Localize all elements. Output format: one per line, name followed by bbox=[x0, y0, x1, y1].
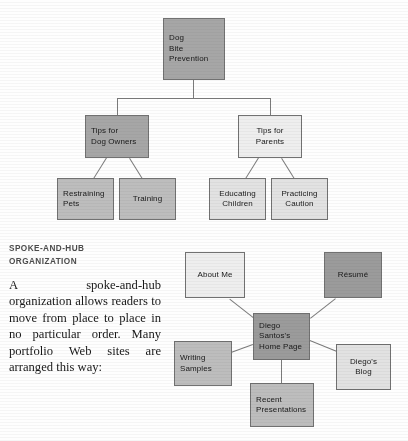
node-label-line2: Presentations bbox=[256, 405, 306, 416]
node-label-line2: Children bbox=[222, 199, 253, 210]
spoke-node-about-me: About Me bbox=[185, 252, 245, 298]
connector-hub-resume bbox=[310, 298, 336, 318]
connector-branch-left-drop bbox=[117, 98, 118, 115]
node-label-line1: Writing bbox=[180, 353, 205, 364]
node-label-line1: Diego bbox=[259, 321, 280, 332]
node-label-line2: Blog bbox=[355, 367, 371, 378]
body-paragraph: A spoke-and-hub organization allows read… bbox=[9, 277, 161, 375]
node-label-line1: Practicing bbox=[281, 189, 317, 200]
node-label-line2: Pets bbox=[63, 199, 79, 210]
connector-root-stem bbox=[193, 80, 194, 98]
section-heading-line2: ORGANIZATION bbox=[9, 256, 161, 269]
hierarchy-node-tips-parents: Tips for Parents bbox=[238, 115, 302, 158]
node-label-line1: About Me bbox=[197, 270, 232, 281]
hierarchy-node-root: Dog Bite Prevention bbox=[163, 18, 225, 80]
hierarchy-node-tips-dog-owners: Tips for Dog Owners bbox=[85, 115, 149, 158]
node-label-line1: Educating bbox=[219, 189, 255, 200]
node-label-line1: Résumé bbox=[338, 270, 368, 281]
hierarchy-leaf-restraining-pets: Restraining Pets bbox=[57, 178, 114, 220]
hierarchy-leaf-training: Training bbox=[119, 178, 176, 220]
connector-hub-about-me bbox=[229, 299, 253, 318]
connector-horizontal-bus bbox=[117, 98, 270, 99]
node-label-line3: Prevention bbox=[169, 54, 208, 65]
node-label-line1: Tips for bbox=[91, 126, 118, 137]
spoke-node-recent-presentations: Recent Presentations bbox=[250, 383, 314, 427]
spoke-node-diegos-blog: Diego's Blog bbox=[336, 344, 391, 390]
node-label-line2: Dog Owners bbox=[91, 137, 136, 148]
hierarchy-leaf-practicing-caution: Practicing Caution bbox=[271, 178, 328, 220]
node-label-line2: Bite bbox=[169, 44, 183, 55]
spoke-node-resume: Résumé bbox=[324, 252, 382, 298]
node-label-line3: Home Page bbox=[259, 342, 302, 353]
section-heading: SPOKE-AND-HUB ORGANIZATION bbox=[9, 243, 161, 268]
node-label-line1: Dog bbox=[169, 33, 184, 44]
connector-branch-right-drop bbox=[270, 98, 271, 115]
section-heading-line1: SPOKE-AND-HUB bbox=[9, 243, 161, 256]
node-label-line1: Restraining bbox=[63, 189, 105, 200]
node-label-line2: Caution bbox=[285, 199, 313, 210]
node-label-line1: Recent bbox=[256, 395, 282, 406]
connector-hub-recent-presentations bbox=[281, 360, 282, 383]
node-label-line1: Tips for bbox=[256, 126, 283, 137]
node-label-line2: Samples bbox=[180, 364, 212, 375]
node-label-line1: Diego's bbox=[350, 357, 377, 368]
node-label-line2: Parents bbox=[256, 137, 284, 148]
hub-node-home-page: Diego Santos's Home Page bbox=[253, 313, 310, 360]
spoke-node-writing-samples: Writing Samples bbox=[174, 341, 232, 386]
hierarchy-leaf-educating-children: Educating Children bbox=[209, 178, 266, 220]
node-label-line1: Training bbox=[133, 194, 162, 205]
node-label-line2: Santos's bbox=[259, 331, 290, 342]
article-text-column: SPOKE-AND-HUB ORGANIZATION A spoke-and-h… bbox=[9, 243, 161, 375]
